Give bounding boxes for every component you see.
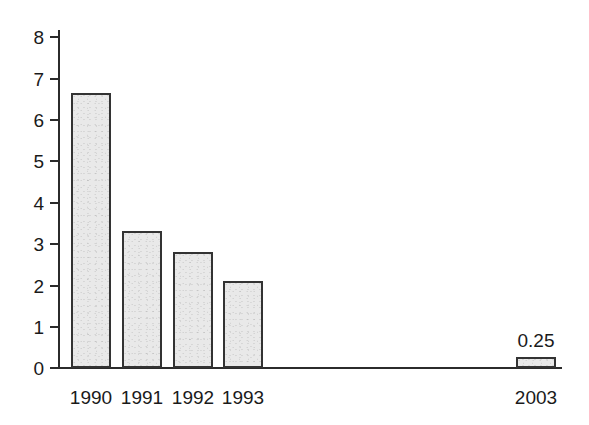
y-axis-label-3: 3 bbox=[16, 235, 44, 254]
y-axis-label-1: 1 bbox=[16, 318, 44, 337]
bar-1990 bbox=[71, 93, 111, 368]
y-axis-tick-4 bbox=[50, 202, 58, 204]
bar-value-label-2003: 0.25 bbox=[506, 331, 566, 350]
y-axis-label-5: 5 bbox=[16, 152, 44, 171]
y-axis-tick-6 bbox=[50, 119, 58, 121]
y-axis-label-2: 2 bbox=[16, 277, 44, 296]
bar-1992 bbox=[173, 252, 213, 368]
y-axis-label-4: 4 bbox=[16, 194, 44, 213]
y-axis-line bbox=[58, 30, 60, 369]
x-axis-label-2003: 2003 bbox=[505, 388, 567, 407]
bar-chart: 8 7 6 5 4 3 2 1 0 0.25 1990 1991 1992 19… bbox=[0, 0, 589, 425]
y-axis-tick-7 bbox=[50, 78, 58, 80]
y-axis-tick-1 bbox=[50, 326, 58, 328]
y-axis-tick-5 bbox=[50, 160, 58, 162]
y-axis-tick-0 bbox=[50, 367, 58, 369]
y-axis-tick-8 bbox=[50, 36, 58, 38]
bar-1993 bbox=[223, 281, 263, 368]
y-axis-label-0: 0 bbox=[16, 359, 44, 378]
y-axis-tick-3 bbox=[50, 243, 58, 245]
y-axis-label-8: 8 bbox=[16, 28, 44, 47]
bar-2003 bbox=[516, 357, 556, 368]
bar-1991 bbox=[122, 231, 162, 368]
y-axis-label-6: 6 bbox=[16, 111, 44, 130]
y-axis-label-7: 7 bbox=[16, 70, 44, 89]
x-axis-label-1993: 1993 bbox=[212, 388, 274, 407]
y-axis-tick-2 bbox=[50, 285, 58, 287]
